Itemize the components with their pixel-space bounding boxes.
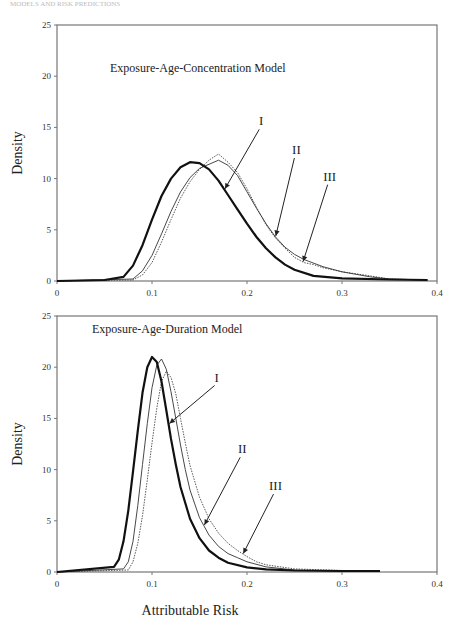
annotation-arrow-iii xyxy=(303,185,328,262)
y-tick-label: 10 xyxy=(42,465,52,475)
y-tick-label: 5 xyxy=(47,225,52,235)
y-tick-label: 25 xyxy=(42,311,52,321)
annotation-label-i: I xyxy=(214,370,218,385)
annotations: IIIIII xyxy=(169,370,282,554)
x-tick-label: 0.3 xyxy=(336,288,348,298)
x-axis-label: Attributable Risk xyxy=(142,603,239,618)
x-ticks: 00.10.20.30.4 xyxy=(55,281,443,298)
x-tick-label: 0.4 xyxy=(431,579,443,589)
y-tick-label: 0 xyxy=(47,276,52,286)
plot-title: Exposure-Age-Concentration Model xyxy=(110,61,286,75)
y-tick-label: 15 xyxy=(42,413,52,423)
series-ii-line xyxy=(57,359,380,572)
y-tick-label: 5 xyxy=(47,516,52,526)
x-tick-label: 0.1 xyxy=(146,288,157,298)
annotation-arrow-ii xyxy=(276,158,295,236)
x-tick-label: 0.4 xyxy=(431,288,443,298)
figure: Exposure-Age-Concentration Model Density… xyxy=(0,0,460,628)
series-group xyxy=(57,357,380,572)
annotation-label-iii: III xyxy=(323,169,336,184)
plot-duration-model: Exposure-Age-Duration Model Density 0510… xyxy=(10,311,443,618)
y-axis-label: Density xyxy=(10,131,25,175)
x-tick-label: 0.1 xyxy=(146,579,157,589)
plot-concentration-model: Exposure-Age-Concentration Model Density… xyxy=(10,20,443,298)
arrowhead-icon xyxy=(274,230,279,236)
annotations: IIIIII xyxy=(225,113,336,261)
annotation-arrow-ii xyxy=(204,457,240,525)
x-tick-label: 0 xyxy=(55,288,60,298)
annotation-arrow-iii xyxy=(243,494,273,553)
series-i-line xyxy=(57,357,380,572)
x-tick-label: 0.2 xyxy=(241,579,252,589)
annotation-label-i: I xyxy=(259,113,263,128)
annotation-label-iii: III xyxy=(269,478,282,493)
y-ticks: 0510152025 xyxy=(42,311,57,577)
y-tick-label: 0 xyxy=(47,567,52,577)
annotation-arrow-i xyxy=(169,386,214,424)
plot-title: Exposure-Age-Duration Model xyxy=(92,322,243,336)
series-iii-line xyxy=(57,371,380,572)
y-axis-label: Density xyxy=(10,422,25,466)
y-tick-label: 25 xyxy=(42,20,52,30)
x-tick-label: 0 xyxy=(55,579,60,589)
y-ticks: 0510152025 xyxy=(42,20,57,286)
series-group xyxy=(57,154,428,281)
y-tick-label: 10 xyxy=(42,174,52,184)
x-ticks: 00.10.20.30.4 xyxy=(55,572,443,589)
series-ii-line xyxy=(57,160,428,281)
plot-frame xyxy=(57,316,437,572)
x-tick-label: 0.2 xyxy=(241,288,252,298)
y-tick-label: 20 xyxy=(42,362,52,372)
annotation-label-ii: II xyxy=(238,441,247,456)
y-tick-label: 15 xyxy=(42,122,52,132)
annotation-arrow-i xyxy=(225,129,259,188)
annotation-label-ii: II xyxy=(292,142,301,157)
x-tick-label: 0.3 xyxy=(336,579,348,589)
y-tick-label: 20 xyxy=(42,71,52,81)
